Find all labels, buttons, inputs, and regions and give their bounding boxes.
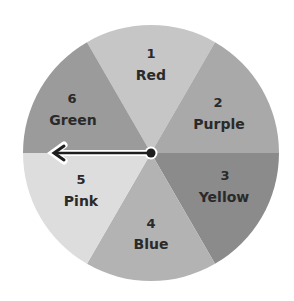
sector-3-number: 3	[220, 168, 229, 183]
arrow-pivot-dot	[147, 149, 156, 158]
sector-2-number: 2	[213, 95, 222, 110]
sector-5-name: Pink	[64, 193, 99, 209]
sector-1-number: 1	[146, 46, 155, 61]
spinner-diagram: 1 Red 2 Purple 3 Yellow 4 Blue 5 Pink 6 …	[0, 0, 294, 301]
sector-6-name: Green	[49, 112, 96, 128]
sector-4-number: 4	[146, 216, 155, 231]
sector-2-name: Purple	[193, 116, 244, 132]
sector-1-name: Red	[136, 67, 166, 83]
sector-6-number: 6	[67, 91, 76, 106]
sector-3-name: Yellow	[198, 189, 250, 205]
sector-5-number: 5	[76, 172, 85, 187]
sector-4-name: Blue	[134, 236, 169, 252]
